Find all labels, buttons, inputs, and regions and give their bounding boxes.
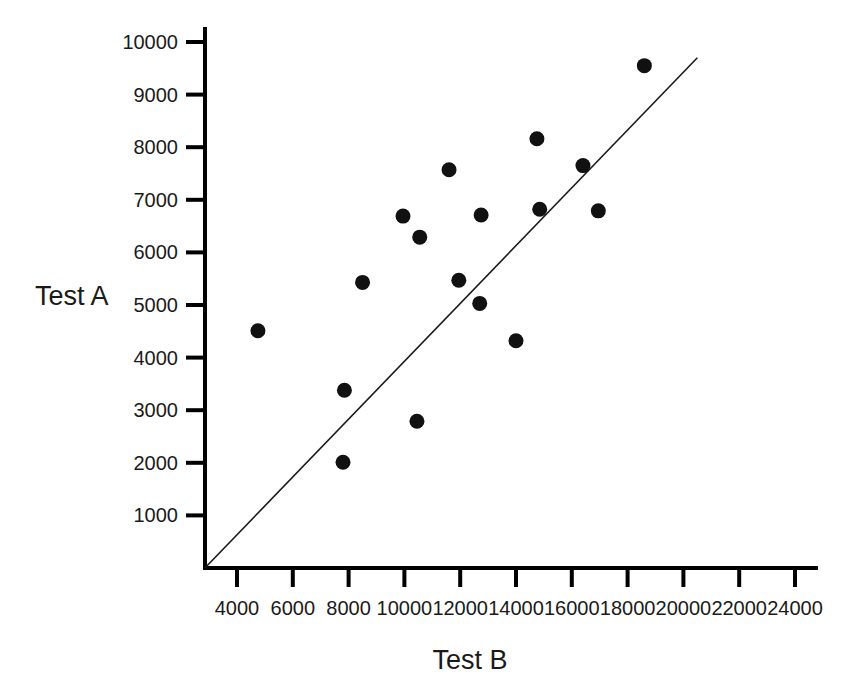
y-tick-label-3000: 3000 [134,399,179,421]
y-tick-label-2000: 2000 [134,452,179,474]
y-tick-label-1000: 1000 [134,504,179,526]
data-point [336,455,351,470]
data-point-group [250,58,651,470]
y-tick-label-10000: 10000 [122,31,178,53]
x-tick-label-10000: 10000 [377,597,433,619]
data-point [575,158,590,173]
data-point [529,131,544,146]
data-point [532,202,547,217]
scatter-plot-figure: 1000200030004000500060007000800090001000… [0,0,853,694]
y-tick-label-5000: 5000 [134,294,179,316]
data-point [250,323,265,338]
y-tick-label-group: 1000200030004000500060007000800090001000… [122,31,178,526]
data-point [355,275,370,290]
y-tick-label-8000: 8000 [134,136,179,158]
data-point [474,208,489,223]
data-point [637,58,652,73]
x-axis-title: Test B [432,645,507,675]
data-point [472,296,487,311]
x-tick-label-14000: 14000 [488,597,544,619]
x-tick-label-12000: 12000 [432,597,488,619]
plot-canvas: 1000200030004000500060007000800090001000… [0,0,853,694]
reference-line [205,58,697,568]
y-tick-label-9000: 9000 [134,84,179,106]
x-tick-label-6000: 6000 [271,597,316,619]
y-axis-title: Test A [35,281,109,311]
data-point [409,414,424,429]
data-point [337,383,352,398]
x-tick-label-8000: 8000 [326,597,371,619]
y-tick-label-7000: 7000 [134,189,179,211]
data-point [396,209,411,224]
x-tick-label-group: 4000600080001000012000140001600018000200… [215,597,823,619]
x-tick-group [237,568,795,587]
data-point [509,333,524,348]
x-tick-label-16000: 16000 [544,597,600,619]
y-tick-label-4000: 4000 [134,347,179,369]
y-tick-group [186,42,205,515]
x-tick-label-18000: 18000 [600,597,656,619]
y-tick-label-6000: 6000 [134,241,179,263]
data-point [442,162,457,177]
x-tick-label-22000: 22000 [711,597,767,619]
data-point [412,230,427,245]
x-tick-label-24000: 24000 [767,597,823,619]
x-tick-label-4000: 4000 [215,597,260,619]
data-point [591,203,606,218]
data-point [451,273,466,288]
x-tick-label-20000: 20000 [656,597,712,619]
